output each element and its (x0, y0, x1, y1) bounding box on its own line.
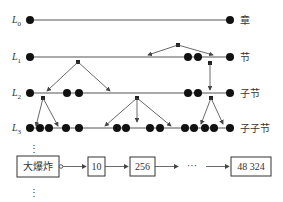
big-bang-label: 大爆炸 (23, 160, 53, 172)
vertical-ellipsis-top: ⋮ (29, 143, 39, 154)
level-label-l3: L3 (11, 122, 22, 136)
node-value-1: 10 (92, 161, 102, 172)
start-connector-icon (59, 165, 63, 169)
level-name-subsection: 子节 (240, 88, 260, 99)
node-value-2: 256 (135, 161, 150, 172)
node-value-3: 48 324 (237, 161, 265, 172)
level-label-l2: L2 (11, 87, 22, 101)
level-name-chapter: 章 (240, 14, 250, 26)
chain-ellipsis: ··· (187, 160, 197, 171)
level-name-subsubsection: 子子节 (240, 123, 270, 134)
vertical-ellipsis-bottom: ⋮ (29, 187, 39, 198)
level-label-l1: L1 (11, 51, 22, 65)
hierarchy-diagram: L0 L1 L2 L3 (0, 0, 283, 202)
level-label-l0: L0 (11, 14, 22, 28)
node-dots (26, 16, 234, 132)
level-name-section: 节 (240, 52, 250, 63)
timeline-chain: 大爆炸 10 256 ··· 48 324 (17, 156, 271, 177)
level-lines (30, 20, 230, 128)
